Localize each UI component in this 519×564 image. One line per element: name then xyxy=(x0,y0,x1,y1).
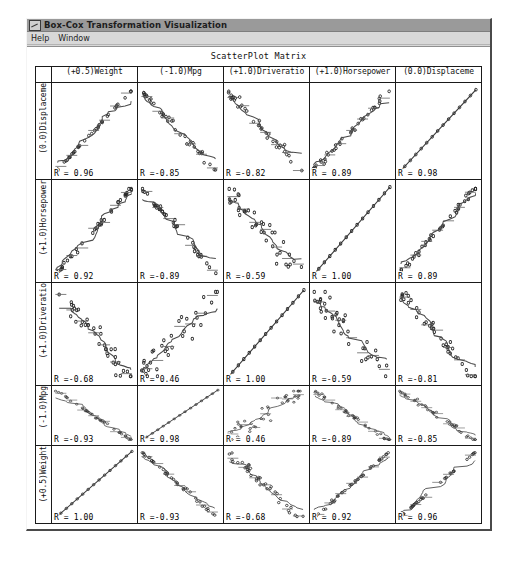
menu-item-window[interactable]: Window xyxy=(58,34,90,43)
scatter-cell-r2-c4[interactable]: R =-0.81 xyxy=(396,282,482,385)
scatter-plot: R = 0.98 xyxy=(396,83,481,179)
column-header-1: (-1.0)Mpg xyxy=(138,67,224,83)
scatter-plot: R = 1.00 xyxy=(52,446,137,523)
scatterplot-matrix: (+0.5)Weight (-1.0)Mpg (+1.0)Driveratio … xyxy=(35,66,482,524)
menu-item-help[interactable]: Help xyxy=(31,34,49,43)
row-header-3: (-1.0)Mpg xyxy=(36,385,52,445)
row-header-4: (+0.5)Weight xyxy=(36,445,52,523)
scatter-cell-r1-c4[interactable]: R = 0.89 xyxy=(396,179,482,282)
matrix-body: (0.0)DisplacemeR = 0.96R =-0.85R =-0.82R… xyxy=(36,83,482,524)
title-bar[interactable]: Box-Cox Transformation Visualization xyxy=(27,19,490,32)
correlation-label: R = 1.00 xyxy=(312,272,351,281)
correlation-label: R =-0.93 xyxy=(140,513,179,522)
correlation-label: R =-0.89 xyxy=(140,272,179,281)
correlation-label: R =-0.85 xyxy=(140,169,179,178)
matrix-corner-cell xyxy=(36,67,52,83)
matrix-row: (+0.5)WeightR = 1.00R =-0.93R =-0.68R = … xyxy=(36,445,482,523)
scatter-cell-r2-c0[interactable]: R =-0.68 xyxy=(52,282,138,385)
correlation-label: R =-0.89 xyxy=(312,435,351,444)
scatter-cell-r0-c2[interactable]: R =-0.82 xyxy=(224,83,310,180)
scatter-cell-r2-c2[interactable]: R = 1.00 xyxy=(224,282,310,385)
scatter-cell-r3-c1[interactable]: R = 0.98 xyxy=(138,385,224,445)
matrix-row: (0.0)DisplacemeR = 0.96R =-0.85R =-0.82R… xyxy=(36,83,482,180)
scatter-cell-r1-c3[interactable]: R = 1.00 xyxy=(310,179,396,282)
chart-title: ScatterPlot Matrix xyxy=(27,51,490,61)
menu-bar: Help Window xyxy=(27,32,490,45)
row-header-label: (+0.5)Weight xyxy=(39,446,48,503)
screenshot-root: Box-Cox Transformation Visualization Hel… xyxy=(0,0,519,564)
matrix-row: (+1.0)DriveratioR =-0.68R = 0.46R = 1.00… xyxy=(36,282,482,385)
scatter-cell-r4-c1[interactable]: R =-0.93 xyxy=(138,445,224,523)
application-window: Box-Cox Transformation Visualization Hel… xyxy=(26,18,492,531)
scatter-cell-r1-c2[interactable]: R =-0.59 xyxy=(224,179,310,282)
scatter-plot: R =-0.93 xyxy=(138,446,223,523)
row-header-label: (0.0)Displaceme xyxy=(39,83,48,154)
scatter-cell-r3-c2[interactable]: R = 0.46 xyxy=(224,385,310,445)
scatter-cell-r2-c1[interactable]: R = 0.46 xyxy=(138,282,224,385)
correlation-label: R =-0.82 xyxy=(226,169,265,178)
row-header-1: (+1.0)Horsepower xyxy=(36,179,52,282)
matrix-header-row: (+0.5)Weight (-1.0)Mpg (+1.0)Driveratio … xyxy=(36,67,482,83)
correlation-label: R =-0.85 xyxy=(398,435,437,444)
scatter-plot: R =-0.93 xyxy=(52,386,137,445)
column-header-3: (+1.0)Horsepower xyxy=(310,67,396,83)
scatter-plot: R =-0.81 xyxy=(396,283,481,385)
scatter-plot: R = 1.00 xyxy=(224,283,309,385)
scatter-cell-r1-c0[interactable]: R = 0.92 xyxy=(52,179,138,282)
correlation-label: R =-0.68 xyxy=(54,375,93,384)
correlation-label: R = 0.92 xyxy=(54,272,93,281)
correlation-label: R = 0.46 xyxy=(140,375,179,384)
scatter-cell-r0-c4[interactable]: R = 0.98 xyxy=(396,83,482,180)
scatter-cell-r4-c3[interactable]: R = 0.92 xyxy=(310,445,396,523)
scatter-plot: R = 0.89 xyxy=(310,83,395,179)
scatter-plot: R = 0.96 xyxy=(396,446,481,523)
scatter-plot: R = 0.46 xyxy=(138,283,223,385)
correlation-label: R = 0.96 xyxy=(398,513,437,522)
scatter-plot: R = 0.46 xyxy=(224,386,309,445)
matrix-row: (+1.0)HorsepowerR = 0.92R =-0.89R =-0.59… xyxy=(36,179,482,282)
correlation-label: R = 1.00 xyxy=(226,375,265,384)
scatter-cell-r3-c3[interactable]: R =-0.89 xyxy=(310,385,396,445)
matrix-table: (+0.5)Weight (-1.0)Mpg (+1.0)Driveratio … xyxy=(35,66,482,524)
scatter-plot: R = 0.98 xyxy=(138,386,223,445)
row-header-label: (-1.0)Mpg xyxy=(39,386,48,428)
row-header-label: (+1.0)Horsepower xyxy=(39,180,48,255)
scatter-plot: R =-0.59 xyxy=(310,283,395,385)
correlation-label: R = 0.89 xyxy=(312,169,351,178)
column-header-4: (0.0)Displaceme xyxy=(396,67,482,83)
scatter-cell-r1-c1[interactable]: R =-0.89 xyxy=(138,179,224,282)
scatter-cell-r0-c1[interactable]: R =-0.85 xyxy=(138,83,224,180)
scatter-plot: R = 0.92 xyxy=(310,446,395,523)
row-header-label: (+1.0)Driveratio xyxy=(39,283,48,358)
scatter-plot: R =-0.68 xyxy=(52,283,137,385)
window-title: Box-Cox Transformation Visualization xyxy=(44,20,227,30)
correlation-label: R = 0.46 xyxy=(226,435,265,444)
scatter-plot: R = 0.92 xyxy=(52,180,137,282)
scatter-plot: R =-0.59 xyxy=(224,180,309,282)
scatter-cell-r4-c0[interactable]: R = 1.00 xyxy=(52,445,138,523)
scatter-cell-r4-c2[interactable]: R =-0.68 xyxy=(224,445,310,523)
scatter-plot: R =-0.89 xyxy=(310,386,395,445)
scatter-plot: R = 1.00 xyxy=(310,180,395,282)
matrix-row: (-1.0)MpgR =-0.93R = 0.98R = 0.46R =-0.8… xyxy=(36,385,482,445)
scatter-plot: R =-0.85 xyxy=(138,83,223,179)
row-header-0: (0.0)Displaceme xyxy=(36,83,52,180)
correlation-label: R =-0.93 xyxy=(54,435,93,444)
column-header-2: (+1.0)Driveratio xyxy=(224,67,310,83)
scatter-cell-r0-c3[interactable]: R = 0.89 xyxy=(310,83,396,180)
correlation-label: R = 0.96 xyxy=(54,169,93,178)
scatter-cell-r3-c4[interactable]: R =-0.85 xyxy=(396,385,482,445)
correlation-label: R =-0.59 xyxy=(226,272,265,281)
scatter-plot: R = 0.96 xyxy=(52,83,137,179)
correlation-label: R = 0.92 xyxy=(312,513,351,522)
scatter-cell-r4-c4[interactable]: R = 0.96 xyxy=(396,445,482,523)
scatter-plot: R =-0.68 xyxy=(224,446,309,523)
scatter-cell-r2-c3[interactable]: R =-0.59 xyxy=(310,282,396,385)
scatter-cell-r0-c0[interactable]: R = 0.96 xyxy=(52,83,138,180)
app-icon xyxy=(29,20,41,31)
column-header-0: (+0.5)Weight xyxy=(52,67,138,83)
correlation-label: R =-0.81 xyxy=(398,375,437,384)
scatter-cell-r3-c0[interactable]: R =-0.93 xyxy=(52,385,138,445)
correlation-label: R = 0.98 xyxy=(140,435,179,444)
row-header-2: (+1.0)Driveratio xyxy=(36,282,52,385)
